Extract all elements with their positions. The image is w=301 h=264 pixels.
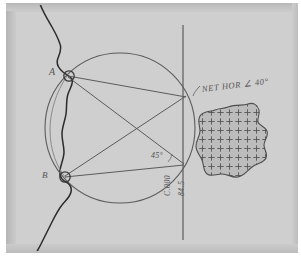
scanned-figure: A B 45° NET HOR ∠ 40° C.000 84.5	[0, 0, 301, 264]
angle-tick	[168, 154, 172, 162]
net-hor-leader	[193, 86, 200, 96]
coastline-path	[35, 4, 73, 256]
hatched-island	[196, 103, 267, 177]
sightline-b-upper	[65, 96, 186, 176]
angle-label: 45°	[151, 151, 163, 160]
sightline-a-lower	[68, 77, 184, 164]
vertical-label-left: C.000	[163, 175, 172, 196]
station-label-a: A	[49, 66, 55, 77]
bay-arc	[50, 76, 67, 178]
station-label-b: B	[42, 170, 48, 180]
vertical-label-right: 84.5	[177, 180, 186, 196]
diagram-canvas	[0, 0, 301, 264]
sightline-a-upper	[68, 76, 186, 97]
